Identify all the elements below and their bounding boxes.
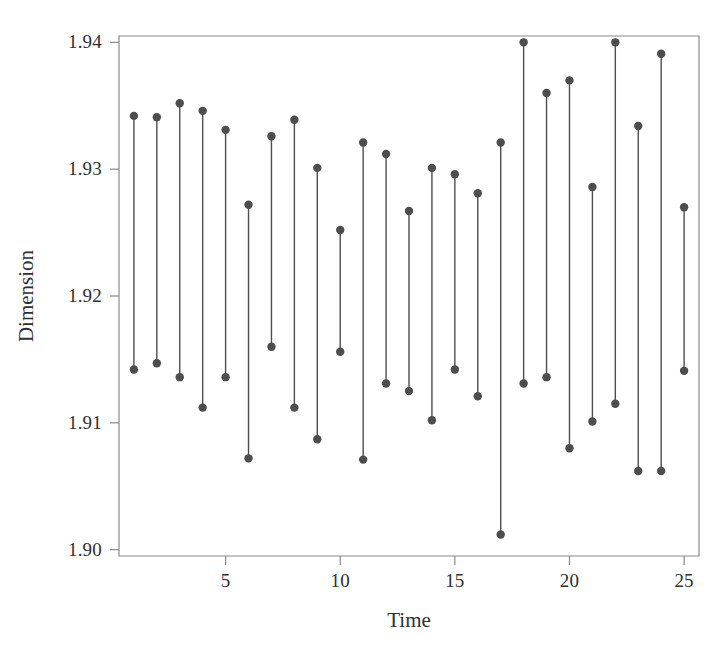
data-point-min: [565, 444, 573, 452]
data-point-max: [657, 50, 665, 58]
data-point-min: [359, 455, 367, 463]
x-tick-label: 5: [221, 570, 231, 592]
data-point-min: [542, 373, 550, 381]
tick-marks: [110, 42, 684, 565]
data-point-min: [496, 530, 504, 538]
data-point-min: [176, 373, 184, 381]
data-point-max: [680, 203, 688, 211]
data-point-max: [244, 200, 252, 208]
data-point-min: [657, 467, 665, 475]
data-point-min: [244, 454, 252, 462]
data-point-min: [336, 348, 344, 356]
data-point-max: [428, 164, 436, 172]
x-tick-label: 10: [331, 570, 350, 592]
x-axis-title: Time: [387, 608, 431, 633]
data-point-max: [474, 189, 482, 197]
data-point-max: [130, 112, 138, 120]
data-point-max: [267, 132, 275, 140]
y-tick-label: 1.92: [30, 285, 102, 307]
data-point-max: [153, 113, 161, 121]
data-point-min: [153, 359, 161, 367]
data-point-max: [290, 116, 298, 124]
data-point-max: [221, 126, 229, 134]
data-point-min: [451, 365, 459, 373]
data-point-min: [313, 435, 321, 443]
data-point-min: [428, 416, 436, 424]
x-tick-label: 25: [674, 570, 693, 592]
data-point-min: [519, 379, 527, 387]
x-tick-label: 20: [560, 570, 579, 592]
y-tick-label: 1.90: [30, 539, 102, 561]
data-point-max: [611, 38, 619, 46]
data-point-min: [267, 343, 275, 351]
data-point-max: [313, 164, 321, 172]
chart-plot-area: [0, 0, 724, 646]
data-point-min: [634, 467, 642, 475]
data-point-max: [176, 99, 184, 107]
data-point-max: [565, 76, 573, 84]
data-point-max: [198, 107, 206, 115]
y-tick-label: 1.91: [30, 412, 102, 434]
data-point-min: [130, 365, 138, 373]
y-tick-label: 1.94: [30, 31, 102, 53]
data-point-max: [588, 183, 596, 191]
data-point-min: [680, 367, 688, 375]
data-point-max: [451, 170, 459, 178]
data-point-max: [496, 138, 504, 146]
data-point-max: [634, 122, 642, 130]
y-axis-title: Dimension: [14, 250, 39, 342]
data-point-min: [290, 403, 298, 411]
data-point-min: [474, 392, 482, 400]
chart-container: 1.901.911.921.931.94510152025 Dimension …: [0, 0, 724, 646]
data-point-max: [405, 207, 413, 215]
data-point-max: [519, 38, 527, 46]
data-point-max: [542, 89, 550, 97]
data-point-max: [359, 138, 367, 146]
data-point-min: [198, 403, 206, 411]
data-point-min: [611, 400, 619, 408]
x-tick-label: 15: [445, 570, 464, 592]
y-tick-label: 1.93: [30, 158, 102, 180]
data-point-min: [588, 417, 596, 425]
data-point-min: [382, 379, 390, 387]
data-point-max: [382, 150, 390, 158]
data-stems: [134, 42, 684, 534]
data-point-max: [336, 226, 344, 234]
data-point-min: [221, 373, 229, 381]
data-point-min: [405, 387, 413, 395]
